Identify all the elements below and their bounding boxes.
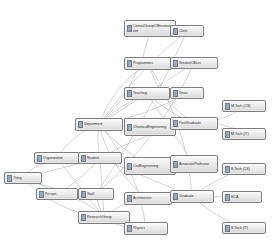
graph-node-label: ResearchGroup (87, 215, 128, 219)
graph-node-teaching[interactable]: Teaching (124, 87, 170, 100)
owl-class-icon (78, 121, 83, 128)
graph-node-civil-eng[interactable]: CivilEngineering (124, 157, 176, 175)
graph-node-label: Physics (133, 226, 166, 230)
graph-node-dean[interactable]: Dean (170, 87, 204, 99)
graph-node-btech-it[interactable]: B.Tech (IT) (222, 222, 266, 234)
owl-class-icon (39, 191, 44, 198)
graph-node-research-group[interactable]: ResearchGroup (78, 211, 130, 224)
graph-node-post-graduate[interactable]: PostGraduate (170, 117, 218, 130)
graph-node-label: Organization (43, 156, 78, 160)
graph-edge (99, 29, 150, 125)
graph-node-thing[interactable]: Thing (4, 172, 42, 184)
graph-node-label: Teaching (133, 91, 168, 95)
graph-node-label: M.Tech (IT) (231, 132, 264, 136)
graph-node-label: Graduate (179, 194, 212, 198)
owl-class-icon (173, 90, 178, 97)
owl-class-icon (127, 163, 132, 170)
graph-node-physics[interactable]: Physics (124, 222, 168, 235)
graph-node-label: CentralGroupOfEnvironment (133, 24, 174, 33)
owl-class-icon (173, 120, 178, 127)
graph-node-graduate[interactable]: Graduate (170, 190, 214, 203)
owl-class-icon (127, 90, 132, 97)
owl-class-icon (173, 28, 178, 35)
owl-class-icon (225, 166, 230, 173)
graph-node-bca[interactable]: BCA (222, 191, 262, 203)
graph-node-label: Thing (13, 176, 40, 180)
owl-class-icon (81, 191, 86, 198)
owl-class-icon (225, 194, 230, 201)
graph-node-label: AssociateProfessor (179, 162, 216, 167)
graph-node-label: Programmes (133, 61, 170, 65)
owl-class-icon (7, 175, 12, 182)
graph-node-organization[interactable]: Organization (34, 152, 80, 164)
graph-node-label: CivilEngineering (133, 164, 174, 169)
graph-node-central-group[interactable]: CentralGroupOfEnvironment (124, 20, 176, 37)
graph-node-mtech-it[interactable]: M.Tech (IT) (222, 128, 266, 140)
owl-class-icon (127, 124, 132, 131)
owl-class-icon (225, 131, 230, 138)
graph-node-label: BCA (231, 195, 260, 199)
graph-node-label: ChemicalEngineering (133, 125, 174, 130)
graph-node-student[interactable]: Student (78, 152, 122, 164)
owl-class-icon (81, 214, 86, 221)
graph-node-label: Department (84, 122, 121, 126)
graph-node-btech-cs[interactable]: B.Tech (CS) (222, 163, 266, 175)
owl-class-icon (225, 225, 230, 232)
graph-node-label: Student (87, 156, 120, 160)
graph-edge (99, 31, 187, 125)
graph-node-department[interactable]: Department (75, 118, 123, 131)
graph-node-label: Staff (87, 192, 112, 196)
owl-class-icon (127, 60, 132, 67)
graph-node-label: Architecture (133, 196, 170, 200)
owl-class-icon (127, 225, 132, 232)
graph-node-clerk[interactable]: Clerk (170, 25, 204, 37)
owl-class-icon (127, 25, 132, 32)
graph-node-label: B.Tech (IT) (231, 226, 264, 230)
owl-class-icon (127, 195, 132, 202)
graph-node-architecture[interactable]: Architecture (124, 192, 172, 205)
owl-class-icon (37, 155, 42, 162)
graph-node-section-officer[interactable]: SectionOfficer (170, 57, 218, 69)
graph-node-mtech-cs[interactable]: M.Tech (CS) (222, 100, 266, 112)
owl-class-icon (81, 155, 86, 162)
owl-class-icon (173, 193, 178, 200)
graph-node-label: Clerk (179, 29, 202, 33)
graph-node-staff[interactable]: Staff (78, 188, 114, 200)
graph-node-label: SectionOfficer (179, 61, 216, 65)
graph-node-associate-prof[interactable]: AssociateProfessor (170, 155, 218, 173)
graph-node-label: Dean (179, 91, 202, 95)
graph-node-person[interactable]: Person (36, 188, 78, 200)
graph-node-label: M.Tech (CS) (231, 104, 264, 108)
graph-node-programmes[interactable]: Programmes (124, 57, 172, 70)
owl-class-icon (173, 60, 178, 67)
graph-node-chemical-eng[interactable]: ChemicalEngineering (124, 118, 176, 136)
graph-node-label: B.Tech (CS) (231, 167, 264, 171)
graph-node-label: Person (45, 192, 76, 196)
owl-class-icon (225, 103, 230, 110)
ontology-graph-canvas[interactable]: ThingOrganizationPersonStudentStaffResea… (0, 0, 272, 249)
owl-class-icon (173, 161, 178, 168)
graph-node-label: PostGraduate (179, 121, 216, 125)
